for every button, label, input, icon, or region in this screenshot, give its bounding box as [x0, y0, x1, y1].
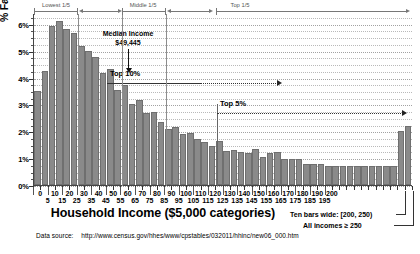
- chart-root: Top 10% Top 5% Median Income $49,445 0%1…: [0, 0, 420, 254]
- y-tick-mark: [31, 119, 34, 120]
- y-tick-mark: [29, 132, 33, 133]
- y-tick-label: 2%: [18, 128, 29, 137]
- bar: [267, 153, 274, 185]
- top5-arrow-icon: [402, 110, 407, 116]
- quintile-divider-3: [166, 14, 167, 186]
- y-tick-label: 3%: [18, 101, 29, 110]
- bar: [274, 152, 281, 185]
- bar: [143, 113, 150, 185]
- ten-bars-wide-leader-vertical: [405, 191, 406, 214]
- y-tick-mark: [31, 85, 34, 86]
- data-source-label: Data source:: [36, 232, 73, 239]
- y-axis-title: % Families at income: [0, 0, 10, 36]
- bar: [252, 149, 259, 185]
- bar: [209, 146, 216, 185]
- x-tick-separator: [150, 187, 151, 195]
- bar: [49, 26, 56, 185]
- bar: [223, 151, 230, 185]
- x-tick-label-bottom: 155: [260, 197, 272, 204]
- top10-dotted-segment: [200, 83, 278, 84]
- bar: [347, 166, 354, 185]
- x-tick-mark: [405, 186, 406, 190]
- bar: [405, 126, 412, 185]
- x-tick-label-bottom: 125: [217, 197, 229, 204]
- y-tick-mark: [31, 72, 34, 73]
- bar: [398, 131, 405, 185]
- y-tick-mark: [31, 65, 34, 66]
- x-tick-separator: [62, 187, 63, 195]
- quintile-divider-2: [122, 14, 123, 186]
- x-tick-mark: [339, 186, 340, 190]
- x-axis-title: Household Income ($5,000 categories): [33, 206, 293, 220]
- x-tick-mark: [390, 186, 391, 190]
- x-tick-label-bottom: 85: [160, 197, 168, 204]
- all-incomes-label: All incomes ≥ 250: [303, 222, 362, 229]
- x-tick-mark: [397, 186, 398, 190]
- bar: [63, 29, 70, 185]
- x-tick-label-top: 140: [239, 190, 251, 197]
- x-tick-label-bottom: 105: [188, 197, 200, 204]
- x-tick-label-bottom: 145: [246, 197, 258, 204]
- x-tick-label-top: 40: [95, 190, 103, 197]
- x-tick-mark: [361, 186, 362, 190]
- bar: [369, 166, 376, 185]
- x-tick-label-bottom: 185: [304, 197, 316, 204]
- y-tick-mark: [31, 31, 34, 32]
- bar: [71, 33, 78, 185]
- data-source: Data source: http://www.census.gov/hhes/…: [36, 232, 299, 239]
- x-tick-label-top: 80: [153, 190, 161, 197]
- quintile-divider-1: [78, 14, 79, 186]
- top5-vertical-line: [217, 104, 218, 186]
- y-tick-mark: [31, 179, 34, 180]
- x-axis: 0102030405060708090100110120130140150160…: [33, 186, 412, 206]
- x-tick-label-top: 120: [209, 190, 221, 197]
- x-tick-mark: [376, 186, 377, 190]
- median-income-pointer-stem: [128, 49, 129, 69]
- x-tick-label-bottom: 175: [290, 197, 302, 204]
- x-tick-separator: [120, 187, 121, 195]
- y-tick-mark: [29, 52, 33, 53]
- y-tick-label: 0%: [18, 182, 29, 191]
- bracket-middle-fifth-cap-left: [122, 8, 123, 15]
- bracket-fourth-fifth-arrow-right-icon: [209, 9, 213, 13]
- x-tick-separator: [77, 187, 78, 195]
- x-tick-mark: [368, 186, 369, 190]
- x-tick-label-bottom: 25: [73, 197, 81, 204]
- bracket-middle-fifth: [122, 11, 165, 12]
- median-income-label-line1: Median Income: [103, 30, 154, 37]
- bar: [136, 100, 143, 185]
- bar: [245, 153, 252, 185]
- x-tick-label-bottom: 135: [231, 197, 243, 204]
- x-tick-label-top: 60: [124, 190, 132, 197]
- bar: [172, 127, 179, 185]
- x-tick-label-bottom: 5: [46, 197, 50, 204]
- top10-vertical-line: [107, 76, 108, 186]
- data-source-url[interactable]: http://www.census.gov/hhes/www/cpstables…: [81, 232, 299, 239]
- x-tick-label-bottom: 95: [175, 197, 183, 204]
- bar: [340, 166, 347, 185]
- bar: [376, 166, 383, 185]
- bracket-top-fifth-arrow-right-icon: [406, 9, 410, 13]
- bar: [151, 112, 158, 185]
- x-tick-separator: [48, 187, 49, 195]
- x-tick-label-bottom: 35: [87, 197, 95, 204]
- bar: [318, 164, 325, 185]
- all-incomes-leader-vertical: [413, 191, 414, 225]
- bar: [383, 166, 390, 185]
- x-tick-label-top: 90: [168, 190, 176, 197]
- x-tick-label-top: 190: [311, 190, 323, 197]
- x-tick-separator: [164, 187, 165, 195]
- x-tick-label-top: 170: [282, 190, 294, 197]
- y-tick-mark: [29, 79, 33, 80]
- bracket-lowest-fifth-cap-right: [77, 8, 78, 15]
- y-tick-mark: [31, 18, 34, 19]
- y-tick-mark: [31, 173, 34, 174]
- bar: [56, 21, 63, 185]
- bracket-top-fifth-cap-left: [216, 8, 217, 15]
- ten-bars-wide-label: Ten bars wide: [200, 250): [290, 211, 372, 218]
- bar: [296, 159, 303, 185]
- x-tick-separator: [106, 187, 107, 195]
- bar: [390, 166, 397, 185]
- y-tick-label: 5%: [18, 47, 29, 56]
- x-tick-label-bottom: 115: [202, 197, 213, 204]
